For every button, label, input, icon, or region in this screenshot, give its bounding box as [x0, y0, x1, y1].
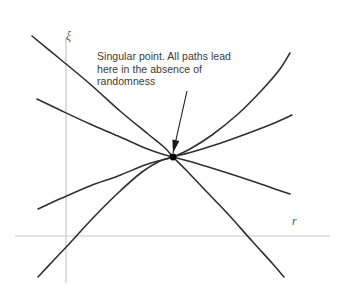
singular-point-dot	[170, 154, 177, 161]
diagram-canvas: Singular point. All paths lead here in t…	[0, 0, 346, 297]
arrow-head	[172, 140, 179, 153]
annotation-label: Singular point. All paths lead here in t…	[97, 50, 232, 88]
phase-portrait-svg	[0, 0, 346, 297]
trajectory-curve	[38, 115, 292, 209]
y-axis-label: ξ	[66, 29, 71, 44]
annotation-arrow	[172, 91, 187, 153]
x-axis-label: r	[292, 214, 297, 229]
singular-point-marker	[170, 154, 177, 161]
